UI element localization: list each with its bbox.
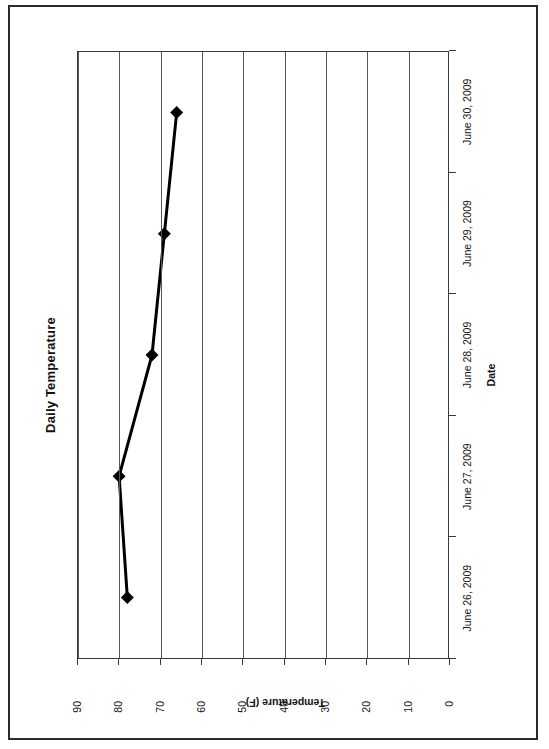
rotated-chart-wrapper: Daily Temperature Temperature (F) Date 0… [25,19,525,731]
y-axis-tick-mark [77,659,78,665]
y-gridline [367,52,368,658]
x-axis-tick-label: June 30, 2009 [461,56,473,166]
y-axis-tick-label: 70 [153,701,165,745]
y-axis-tick-mark [159,659,160,665]
x-axis-tick-mark [449,293,456,294]
y-axis-tick-label: 80 [112,701,124,745]
y-axis-tick-label: 30 [319,701,331,745]
y-axis-tick-mark [449,659,450,665]
y-gridline [78,52,79,658]
x-axis-tick-mark [449,414,456,415]
y-axis-tick-mark [242,659,243,665]
y-axis-tick-label: 50 [236,701,248,745]
plot-area [77,51,449,659]
x-axis-tick-mark [449,536,456,537]
data-point-marker [170,106,183,119]
y-axis-tick-label: 90 [71,701,83,745]
chart: Daily Temperature Temperature (F) Date 0… [25,19,525,731]
x-axis-tick-mark [449,50,456,51]
y-axis-tick-mark [283,659,284,665]
y-axis-tick-label: 20 [360,701,372,745]
x-axis-tick-label: June 28, 2009 [461,300,473,410]
y-gridline [160,52,161,658]
y-gridline [408,52,409,658]
scanned-page: Daily Temperature Temperature (F) Date 0… [0,0,549,749]
x-axis-tick-mark [449,171,456,172]
y-gridline [243,52,244,658]
x-axis-tick-label: June 29, 2009 [461,178,473,288]
data-point-marker [145,348,158,361]
y-axis-tick-label: 0 [443,701,455,745]
y-gridline [119,52,120,658]
y-gridline [202,52,203,658]
series-line-chart [78,52,448,658]
x-axis-title: Date [485,19,497,731]
y-axis-tick-label: 10 [401,701,413,745]
y-gridline [284,52,285,658]
data-point-marker [157,227,170,240]
y-axis-tick-label: 40 [277,701,289,745]
y-gridline [326,52,327,658]
y-axis-tick-label: 60 [195,701,207,745]
y-axis-tick-mark [118,659,119,665]
x-axis-tick-label: June 26, 2009 [461,543,473,653]
y-axis-tick-mark [366,659,367,665]
y-axis-tick-mark [201,659,202,665]
y-axis-tick-mark [325,659,326,665]
chart-title: Daily Temperature [43,19,58,731]
x-axis-tick-label: June 27, 2009 [461,421,473,531]
data-point-marker [120,590,133,603]
x-axis-tick-mark [449,658,456,659]
y-axis-tick-mark [407,659,408,665]
